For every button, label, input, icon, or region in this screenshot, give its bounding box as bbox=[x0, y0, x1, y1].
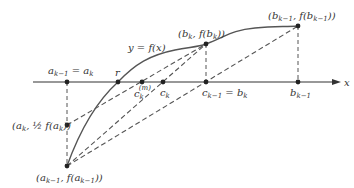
x-axis-label: x bbox=[344, 77, 350, 88]
curve-label: y = f(x) bbox=[127, 42, 166, 53]
secant-lines bbox=[67, 26, 298, 166]
label-c-m: ck(m) bbox=[134, 84, 151, 101]
point-c-k bbox=[161, 80, 166, 85]
label-bprev-fbprev: (bk−1, f(bk−1)) bbox=[268, 10, 336, 23]
point-c-prev bbox=[204, 80, 209, 85]
label-aprev-faprev: (ak−1, f(ak−1)) bbox=[36, 172, 103, 185]
secant-aprev-to-bprev bbox=[67, 26, 298, 166]
regula-falsi-diagram: x y = f(x) ak−1 = ak r ck(m) ck ck−1 = b… bbox=[0, 0, 354, 188]
label-r: r bbox=[115, 67, 121, 78]
x-axis-arrow-icon bbox=[332, 79, 341, 85]
label-ak-half: (ak, ½ f(ak)) bbox=[12, 120, 71, 133]
label-c-prev-eq-b: ck−1 = bk bbox=[202, 87, 248, 100]
label-a-prev-eq-a: ak−1 = ak bbox=[48, 65, 93, 78]
label-c-k: ck bbox=[160, 87, 170, 100]
point-b-prev bbox=[296, 80, 301, 85]
secant-ak-half-to-bk bbox=[67, 44, 206, 125]
point-r bbox=[116, 80, 121, 85]
point-bprev-fbprev bbox=[296, 24, 301, 29]
point-a-prev bbox=[65, 80, 70, 85]
secant-aprev-to-bk bbox=[67, 44, 206, 166]
point-aprev-faprev bbox=[65, 164, 70, 169]
label-b-prev: bk−1 bbox=[290, 87, 311, 100]
point-bk-fbk bbox=[204, 42, 209, 47]
points bbox=[65, 24, 301, 169]
